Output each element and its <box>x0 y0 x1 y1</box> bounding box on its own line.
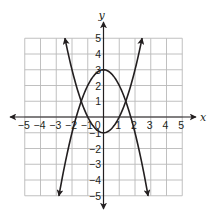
x-tick-label: −5 <box>18 119 30 131</box>
coordinate-graph: x y 0 −5−4−3−2−112345−5−4−3−2−112345 <box>0 0 219 223</box>
x-tick-label: 1 <box>115 119 121 131</box>
y-tick-label: −5 <box>89 190 101 202</box>
y-axis-label: y <box>98 9 106 22</box>
y-tick-label: 4 <box>95 48 101 60</box>
y-tick-label: 1 <box>95 95 101 107</box>
y-tick-label: −2 <box>89 143 101 155</box>
x-tick-label: 4 <box>163 119 169 131</box>
y-tick-label: 5 <box>95 32 101 44</box>
y-tick-label: −3 <box>89 158 101 170</box>
x-tick-label: 5 <box>178 119 184 131</box>
x-axis-label: x <box>200 111 207 124</box>
x-tick-label: 3 <box>147 119 153 131</box>
y-tick-label: 2 <box>95 80 101 92</box>
axes: x y <box>10 9 207 209</box>
x-tick-label: −4 <box>34 119 46 131</box>
x-tick-label: −3 <box>49 119 61 131</box>
y-tick-label: −4 <box>89 174 101 186</box>
